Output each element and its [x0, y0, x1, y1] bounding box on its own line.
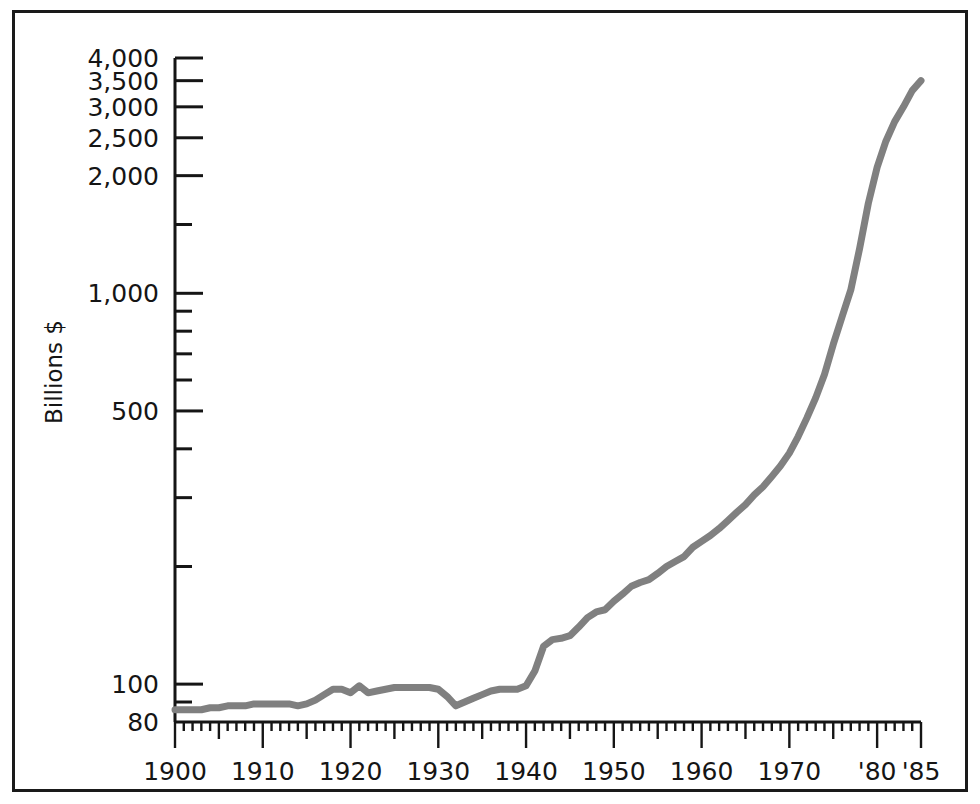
line-chart-svg: 4,0003,5003,0002,5002,0001,0005001008019…: [0, 0, 980, 804]
y-tick-label: 100: [111, 670, 159, 699]
y-tick-label: 3,000: [87, 93, 159, 122]
x-tick-label: 1970: [758, 757, 822, 786]
y-tick-label: 2,000: [87, 162, 159, 191]
x-tick-label: 1900: [143, 757, 207, 786]
x-tick-label: 1910: [231, 757, 295, 786]
x-tick-label: '80: [858, 757, 897, 786]
y-tick-label: 1,000: [87, 279, 159, 308]
data-series-group: [175, 81, 921, 710]
y-axis-title: Billions $: [41, 320, 67, 424]
x-tick-label: 1930: [406, 757, 470, 786]
x-tick-label: 1920: [319, 757, 383, 786]
x-tick-label: 1950: [582, 757, 646, 786]
data-line: [175, 81, 921, 710]
y-tick-label: 500: [111, 397, 159, 426]
plot-area: 4,0003,5003,0002,5002,0001,0005001008019…: [0, 0, 980, 804]
y-tick-label: 2,500: [87, 124, 159, 153]
x-tick-label: '85: [902, 757, 941, 786]
x-tick-label: 1960: [670, 757, 734, 786]
y-tick-label: 3,500: [87, 67, 159, 96]
chart-page: 4,0003,5003,0002,5002,0001,0005001008019…: [0, 0, 980, 804]
y-tick-label: 80: [127, 708, 159, 737]
x-tick-label: 1940: [494, 757, 558, 786]
